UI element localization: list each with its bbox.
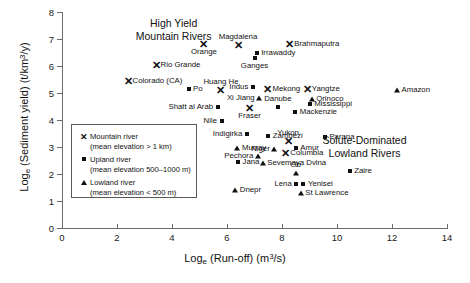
data-point-label: Shatt al Arab: [168, 103, 213, 111]
data-point-x: ✕: [303, 84, 312, 95]
x-tick: [392, 224, 393, 229]
y-axis-title-text: Loge (Sediment yield) (t/km3/y): [18, 42, 30, 191]
data-point-label: Dnepr: [240, 186, 261, 194]
high-yield-mountain-rivers-line2: Mountain Rivers: [136, 30, 212, 43]
high-yield-mountain-rivers-line1: High Yield: [136, 17, 212, 30]
data-point-square: [301, 182, 305, 186]
x-tick: [447, 224, 448, 229]
x-tick: [282, 224, 283, 229]
data-point-triangle: [293, 171, 299, 176]
data-point-triangle: [260, 161, 266, 166]
data-point-label: Niger: [251, 145, 270, 153]
data-point-square: [236, 160, 240, 164]
legend-item-1: Upland river(mean elevation 500–1000 m): [79, 155, 197, 175]
data-point-triangle: [394, 87, 400, 92]
data-point-x: ✕: [152, 60, 161, 71]
triangle-marker-icon: [79, 178, 89, 188]
data-point-square: [253, 56, 257, 60]
data-point-label: Orange: [191, 48, 217, 56]
x-tick-label: 10: [332, 232, 343, 243]
data-point-square: [255, 51, 259, 55]
data-point-square: [276, 105, 280, 109]
data-point-label: Irrawaddy: [261, 49, 295, 57]
y-tick: [57, 147, 62, 148]
data-point-square: [266, 134, 270, 138]
y-tick-label: 8: [40, 7, 54, 18]
x-tick-label: 0: [59, 232, 64, 243]
data-point-label: Magdalena: [219, 34, 258, 42]
solute-dominated-lowland-rivers-line2: Lowland Rivers: [322, 147, 406, 160]
data-point-x: ✕: [234, 40, 243, 51]
data-point-label: Brahmaputra: [294, 40, 339, 48]
data-point-label: Orinoco: [316, 95, 343, 103]
x-marker-icon: ✕: [79, 132, 89, 143]
data-point-label: Indigirka: [213, 130, 242, 138]
y-tick: [57, 39, 62, 40]
scatter-chart-figure: ✕Rio Grande✕Colorado (CA)✕Orange✕Magdale…: [0, 0, 470, 283]
data-point-triangle: [232, 187, 238, 192]
data-point-triangle: [271, 146, 277, 151]
y-tick: [57, 12, 62, 13]
data-point-triangle: [309, 96, 315, 101]
x-axis-line: [62, 228, 448, 229]
data-point-label: Po: [193, 86, 203, 94]
data-point-square: [245, 132, 249, 136]
data-point-label: Ganges: [241, 62, 268, 70]
x-tick-label: 12: [387, 232, 398, 243]
x-tick: [337, 224, 338, 229]
data-point-x: ✕: [281, 148, 290, 159]
data-point-label: Lena: [274, 180, 291, 188]
data-point-label: Rio Grande: [161, 62, 201, 70]
data-point-square: [294, 146, 298, 150]
data-point-square: [251, 85, 255, 89]
data-point-label: Xi Jiang: [227, 94, 255, 102]
data-point-triangle: [298, 190, 304, 195]
data-point-label: Amazon: [401, 86, 430, 94]
data-point-triangle: [255, 154, 261, 159]
y-axis-line: [62, 12, 63, 229]
legend-item-subtitle: (mean elevation 500–1000 m): [90, 165, 197, 175]
data-point-label: Nile: [204, 117, 217, 125]
y-tick-label: 2: [40, 169, 54, 180]
y-tick-label: 0: [40, 223, 54, 234]
x-tick: [172, 224, 173, 229]
data-point-label: Ob: [291, 162, 301, 170]
x-tick-label: 6: [224, 232, 229, 243]
y-tick-label: 4: [40, 115, 54, 126]
y-tick-label: 1: [40, 196, 54, 207]
y-tick: [57, 174, 62, 175]
data-point-label: St Lawrence: [305, 189, 348, 197]
y-tick: [57, 228, 62, 229]
legend-box: ✕Mountain river(mean elevation > 1 km)Up…: [71, 124, 197, 198]
data-point-square: [308, 102, 312, 106]
x-tick-label: 14: [442, 232, 453, 243]
legend-item-title: Mountain river: [90, 132, 197, 142]
x-tick: [62, 224, 63, 229]
legend-item-title: Upland river: [90, 155, 197, 165]
data-point-triangle: [256, 95, 262, 100]
x-tick-label: 8: [279, 232, 284, 243]
y-tick-label: 6: [40, 61, 54, 72]
x-tick: [117, 224, 118, 229]
data-point-label: Zambezi: [273, 132, 303, 140]
data-point-label: Indus: [229, 83, 248, 91]
legend-item-2: Lowland river(mean elevation < 500 m): [79, 178, 197, 198]
data-point-label: Pechora: [224, 152, 253, 160]
y-tick-label: 7: [40, 34, 54, 45]
data-point-square: [220, 119, 224, 123]
solute-dominated-lowland-rivers: Solute-DominatedLowland Rivers: [322, 134, 406, 160]
data-point-square: [216, 105, 220, 109]
y-tick-label: 5: [40, 88, 54, 99]
y-tick: [57, 201, 62, 202]
data-point-label: Danube: [264, 95, 291, 103]
data-point-square: [348, 169, 352, 173]
data-point-label: Fraser: [238, 112, 261, 120]
legend-item-subtitle: (mean elevation < 500 m): [90, 188, 197, 198]
y-axis-title: Loge (Sediment yield) (t/km3/y): [18, 7, 32, 227]
data-point-label: Amur: [300, 144, 319, 152]
square-marker-icon: [79, 155, 89, 165]
data-point-triangle: [234, 146, 240, 151]
data-point-x: ✕: [263, 84, 272, 95]
data-point-label: Yangtze: [312, 85, 340, 93]
data-point-x: ✕: [124, 75, 133, 86]
